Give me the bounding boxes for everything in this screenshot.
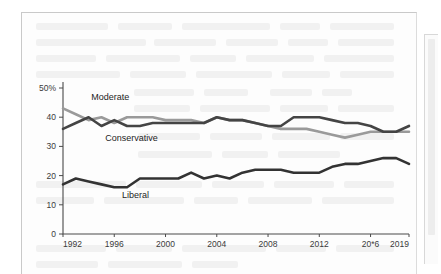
scrollbar-thumb[interactable]	[428, 39, 435, 235]
x-tick-label: 2012	[310, 239, 329, 249]
y-tick-label: 20	[47, 171, 57, 181]
y-axis-tick-labels: 01020304050%	[39, 83, 63, 239]
series-label-moderate: Moderate	[91, 92, 129, 102]
x-tick-label: 1996	[105, 239, 124, 249]
x-axis-tick-labels: 19921996200020042008201220*62019	[63, 234, 409, 249]
x-tick-label: 1992	[63, 239, 82, 249]
y-tick-label: 40	[47, 112, 57, 122]
y-tick-label: 10	[47, 200, 57, 210]
series-label-conservative: Conservative	[105, 133, 158, 143]
series-label-liberal: Liberal	[122, 190, 149, 200]
line-chart: 01020304050% 19921996200020042008201220*…	[21, 12, 417, 264]
series-line-liberal	[63, 158, 409, 187]
y-tick-label: 30	[47, 141, 57, 151]
series-line-conservative	[63, 117, 409, 132]
x-tick-label: 2004	[207, 239, 226, 249]
axis-lines	[63, 82, 409, 234]
chart-axes	[63, 82, 409, 234]
y-tick-label: 50%	[39, 83, 56, 93]
x-tick-label: 2019	[390, 239, 409, 249]
chart-series-lines	[63, 108, 409, 187]
x-tick-label: 20*6	[362, 239, 380, 249]
vertical-scrollbar[interactable]	[424, 34, 438, 264]
x-tick-label: 2000	[156, 239, 175, 249]
x-tick-label: 2008	[259, 239, 278, 249]
chart-canvas: 01020304050% 19921996200020042008201220*…	[21, 12, 417, 264]
y-tick-label: 0	[51, 229, 56, 239]
